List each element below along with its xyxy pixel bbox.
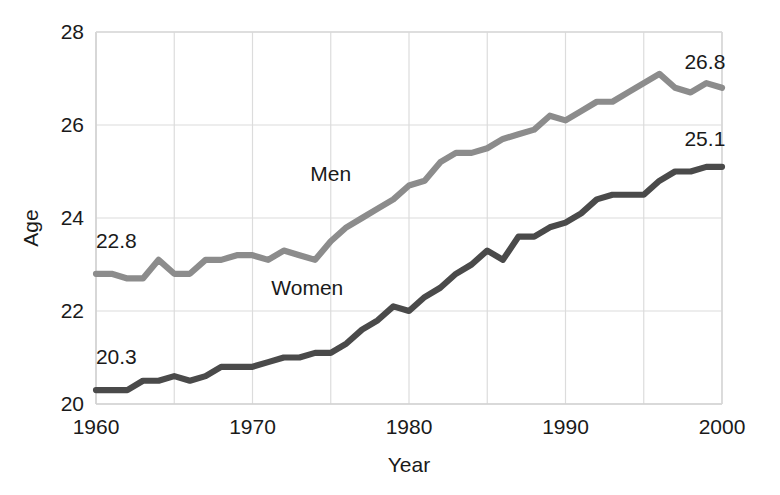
value-annotation: 22.8 [96, 229, 137, 252]
y-tick-label: 22 [61, 299, 84, 322]
x-axis-title: Year [388, 453, 430, 476]
x-tick-label: 2000 [699, 415, 746, 438]
value-annotation: 26.8 [684, 50, 725, 73]
y-tick-label: 28 [61, 20, 84, 43]
x-tick-label: 1980 [386, 415, 433, 438]
y-tick-label: 20 [61, 392, 84, 415]
y-tick-label: 24 [61, 206, 85, 229]
value-annotation: 20.3 [96, 345, 137, 368]
x-tick-label: 1990 [542, 415, 589, 438]
series-label-men: Men [310, 162, 351, 185]
chart-container: 2022242628 19601970198019902000 MenWomen… [0, 0, 780, 495]
line-chart: 2022242628 19601970198019902000 MenWomen… [0, 0, 780, 495]
x-tick-label: 1960 [73, 415, 120, 438]
series-label-women: Women [271, 276, 343, 299]
y-tick-label: 26 [61, 113, 84, 136]
value-annotation: 25.1 [684, 127, 725, 150]
x-tick-label: 1970 [229, 415, 276, 438]
y-axis-title: Age [19, 209, 42, 246]
